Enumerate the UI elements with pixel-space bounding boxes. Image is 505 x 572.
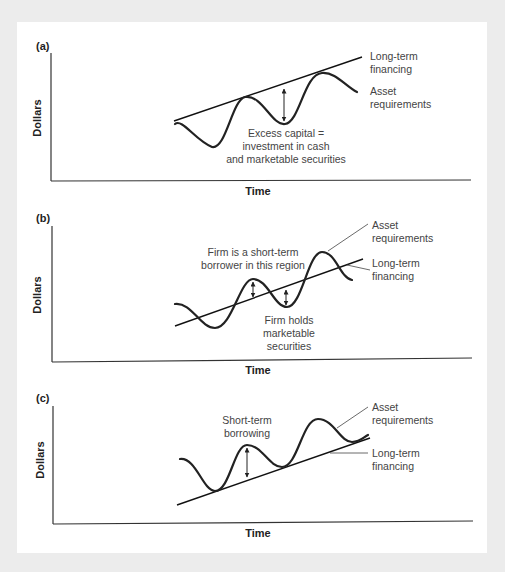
- marketable-securities-note: Firm holds: [264, 314, 313, 326]
- long-term-financing-label: financing: [372, 460, 414, 472]
- long-term-financing-label: Long-term: [370, 50, 418, 62]
- marketable-securities-note: marketable: [263, 327, 315, 339]
- short-term-borrower-note: borrower in this region: [201, 259, 305, 271]
- asset-requirements-label: requirements: [372, 414, 433, 426]
- panel-label: (a): [36, 40, 50, 52]
- asset-requirements-label: Asset: [372, 401, 398, 413]
- excess-capital-note: Excess capital =: [248, 127, 324, 139]
- panel-label: (b): [36, 212, 50, 224]
- x-axis: [52, 358, 472, 362]
- x-axis-label: Time: [245, 185, 270, 197]
- long-term-financing-line: [177, 438, 370, 505]
- excess-capital-note: and marketable securities: [226, 153, 346, 165]
- long-term-financing-label: financing: [372, 270, 414, 282]
- long-term-financing-label: Long-term: [372, 257, 420, 269]
- asset-leader-line: [328, 224, 368, 251]
- long-term-financing-label: financing: [370, 63, 412, 75]
- short-term-borrowing-note: Short-term: [222, 414, 272, 426]
- short-term-borrower-note: Firm is a short-term: [207, 246, 298, 258]
- y-axis-label: Dollars: [31, 276, 43, 313]
- asset-requirements-curve: [180, 419, 368, 491]
- marketable-securities-note: securities: [267, 340, 311, 352]
- long-term-leader-line: [347, 265, 370, 270]
- panel-a: (a) Dollars Time Long-term financing Ass…: [31, 40, 471, 197]
- asset-requirements-label: requirements: [372, 232, 433, 244]
- x-axis-label: Time: [245, 527, 270, 539]
- panel-c: (c) Dollars Time Asset requirements Long…: [34, 392, 473, 539]
- excess-capital-note: investment in cash: [243, 140, 330, 152]
- y-axis-label: Dollars: [34, 441, 46, 478]
- y-axis-label: Dollars: [31, 99, 43, 136]
- panel-label: (c): [36, 392, 50, 404]
- financing-strategies-diagram: (a) Dollars Time Long-term financing Ass…: [0, 0, 505, 572]
- asset-requirements-label: Asset: [372, 219, 398, 231]
- long-term-financing-label: Long-term: [372, 447, 420, 459]
- asset-requirements-label: Asset: [370, 85, 396, 97]
- short-term-borrowing-note: borrowing: [224, 427, 270, 439]
- asset-leader-line: [337, 407, 368, 428]
- x-axis: [53, 521, 473, 524]
- panel-b: (b) Dollars Time Asset requirements Long…: [31, 212, 472, 376]
- x-axis: [51, 180, 471, 181]
- x-axis-label: Time: [245, 364, 270, 376]
- asset-requirements-label: requirements: [370, 98, 431, 110]
